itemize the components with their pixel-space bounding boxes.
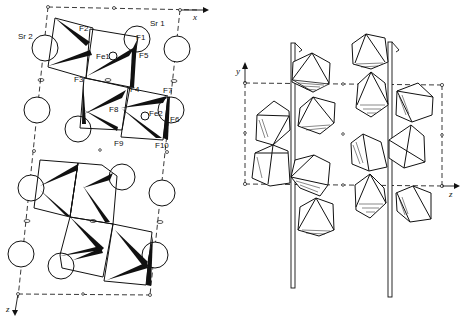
- label-fe1: Fe1: [96, 52, 110, 61]
- octahedron-r5: [291, 155, 330, 196]
- octahedron-r13: [396, 186, 431, 222]
- right-panel-projection-yz: y z: [235, 34, 460, 297]
- sr-atom: [109, 164, 135, 190]
- octahedron-r4: [252, 145, 290, 186]
- octahedron-r1: [292, 53, 330, 92]
- octahedron-r7: [352, 34, 388, 69]
- label-f6: F6: [170, 115, 180, 124]
- octahedron-r8: [356, 72, 388, 117]
- sr-atom: [164, 36, 190, 62]
- label-f9: F9: [114, 139, 124, 148]
- sr-atom: [8, 241, 34, 267]
- sr-atom: [48, 253, 74, 279]
- left-panel-projection-xz: x z: [5, 6, 209, 317]
- octahedron-r12: [355, 174, 386, 218]
- fe1-octahedron: [48, 18, 138, 88]
- label-sr2: Sr 2: [18, 32, 33, 41]
- octahedron-r9: [396, 83, 433, 122]
- sr-atom: [18, 175, 44, 201]
- label-fe2: Fe2: [149, 109, 163, 118]
- crystal-structure-figure: x z: [0, 0, 460, 318]
- z-axis-arrow-icon: [12, 310, 18, 316]
- octahedron-r10: [351, 134, 387, 171]
- octahedron-r6: [298, 198, 334, 236]
- label-sr1: Sr 1: [150, 19, 165, 28]
- sr-atom: [65, 116, 91, 142]
- label-f7: F7: [163, 86, 173, 95]
- fe1-atom: [109, 52, 117, 60]
- label-f4: F4: [130, 85, 140, 94]
- label-f1: F1: [136, 33, 146, 42]
- label-f10: F10: [155, 141, 169, 150]
- label-f2: F2: [79, 24, 89, 33]
- y-axis-arrow-icon: [242, 62, 248, 69]
- x-axis-arrow-icon: [203, 7, 209, 13]
- label-f3: F3: [74, 75, 84, 84]
- label-f8: F8: [109, 105, 119, 114]
- sr-atom: [149, 180, 175, 206]
- octahedron-r3: [256, 101, 290, 145]
- z-axis-label: z: [5, 304, 10, 314]
- fe2-atom: [141, 112, 149, 120]
- label-f5: F5: [139, 51, 149, 60]
- octahedron-r2: [298, 97, 335, 134]
- sr2-atom: [32, 35, 58, 61]
- x-axis-label: x: [192, 12, 197, 22]
- y-axis-label: y: [235, 66, 240, 76]
- sr-atom: [24, 97, 50, 123]
- octahedron-r11: [389, 125, 425, 168]
- z-axis-label-right: z: [448, 189, 453, 199]
- screw-axis-right: [388, 42, 399, 297]
- z-axis-arrow-icon: [454, 183, 460, 189]
